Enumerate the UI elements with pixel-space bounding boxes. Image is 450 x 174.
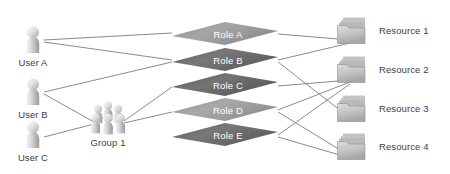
role-e-label: Role E (213, 130, 243, 141)
link-group-1-role-c (124, 87, 172, 121)
node-resource-4[interactable]: Resource 4 (338, 134, 429, 160)
node-group-1[interactable]: Group 1 (90, 102, 125, 148)
person-icon (27, 78, 39, 105)
role-a-label: Role A (213, 29, 243, 40)
node-role-d[interactable]: Role D (172, 98, 278, 121)
link-user-a-role-a (44, 33, 172, 40)
node-resource-2[interactable]: Resource 2 (338, 57, 429, 83)
link-user-b-group-1 (44, 94, 94, 122)
node-resource-1[interactable]: Resource 1 (338, 18, 429, 44)
role-c-label: Role C (213, 80, 243, 91)
user-b-label: User B (18, 109, 48, 120)
node-user-b[interactable]: User B (18, 78, 48, 120)
user-c-label: User C (18, 152, 48, 163)
node-user-a[interactable]: User A (18, 26, 48, 68)
folder-icon (338, 57, 366, 83)
folder-icon (338, 96, 366, 122)
people-group-icon (91, 102, 125, 135)
resource-2-label: Resource 2 (379, 64, 429, 75)
node-role-a[interactable]: Role A (172, 22, 278, 45)
person-icon (27, 26, 39, 53)
user-a-label: User A (18, 57, 48, 68)
link-role-b-resource-1 (278, 43, 350, 60)
node-resource-3[interactable]: Resource 3 (338, 96, 429, 122)
folder-icon (338, 18, 366, 44)
rbac-diagram: User A User B User C (0, 0, 450, 174)
roles-group: Role A Role B Role C Role D Role E (172, 22, 278, 146)
diagram-canvas: User A User B User C (0, 0, 450, 174)
group-1-label: Group 1 (90, 137, 125, 148)
link-user-b-role-b (44, 62, 172, 92)
link-group-1-role-d (124, 112, 172, 123)
resources-group: Resource 1 Resource 2 Resource 3 Resourc… (338, 18, 429, 160)
link-user-c-group-1 (44, 124, 94, 137)
role-d-label: Role D (213, 105, 243, 116)
person-icon (27, 121, 39, 148)
folder-icon (338, 134, 366, 160)
resource-3-label: Resource 3 (379, 103, 429, 114)
groups-group: Group 1 (90, 102, 125, 148)
role-b-label: Role B (213, 55, 243, 66)
node-role-c[interactable]: Role C (172, 73, 278, 96)
node-user-c[interactable]: User C (18, 121, 48, 163)
node-role-e[interactable]: Role E (172, 123, 278, 146)
users-group: User A User B User C (18, 26, 48, 163)
resource-4-label: Resource 4 (379, 141, 429, 152)
node-role-b[interactable]: Role B (172, 48, 278, 71)
resource-1-label: Resource 1 (379, 25, 429, 36)
link-user-a-role-b (44, 42, 172, 60)
